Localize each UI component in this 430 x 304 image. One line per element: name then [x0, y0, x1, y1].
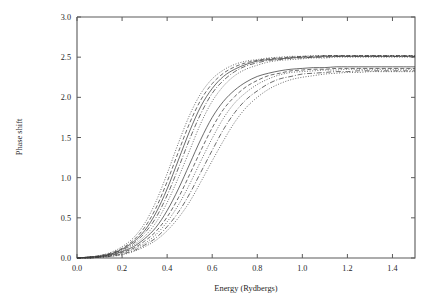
- data-curve: [77, 71, 415, 258]
- data-curve: [77, 72, 415, 258]
- y-tick-label: 1.0: [61, 174, 71, 183]
- x-tick-label: 0.6: [207, 264, 217, 273]
- x-tick-label: 0.2: [117, 264, 127, 273]
- x-tick-label: 1.0: [297, 264, 307, 273]
- x-tick-label: 0.0: [72, 264, 82, 273]
- x-axis-title: Energy (Rydbergs): [214, 284, 278, 293]
- x-tick-label: 0.4: [162, 264, 172, 273]
- x-tick-label: 1.2: [342, 264, 352, 273]
- plot-axes: [77, 17, 415, 258]
- y-tick-label: 0.0: [61, 254, 71, 263]
- x-tick-label: 1.4: [387, 264, 397, 273]
- y-tick-label: 2.0: [61, 93, 71, 102]
- axis-frame: [77, 17, 415, 258]
- phase-shift-line-chart: 0.00.20.40.60.81.01.21.4 0.00.51.01.52.0…: [0, 0, 430, 304]
- data-curve: [77, 69, 415, 258]
- y-tick-label: 2.5: [61, 53, 71, 62]
- y-tick-label: 1.5: [61, 134, 71, 143]
- data-curves-group: [77, 56, 415, 259]
- y-tick-label: 3.0: [61, 13, 71, 22]
- data-curve: [77, 67, 415, 258]
- data-curve: [77, 68, 415, 258]
- data-curve: [77, 56, 415, 258]
- y-axis-ticks: 0.00.51.01.52.02.53.0: [61, 13, 415, 263]
- data-curve: [77, 56, 415, 258]
- y-tick-label: 0.5: [61, 214, 71, 223]
- x-tick-label: 0.8: [252, 264, 262, 273]
- y-axis-title: Phase shift: [15, 118, 24, 155]
- figure-container: 0.00.20.40.60.81.01.21.4 0.00.51.01.52.0…: [0, 0, 430, 304]
